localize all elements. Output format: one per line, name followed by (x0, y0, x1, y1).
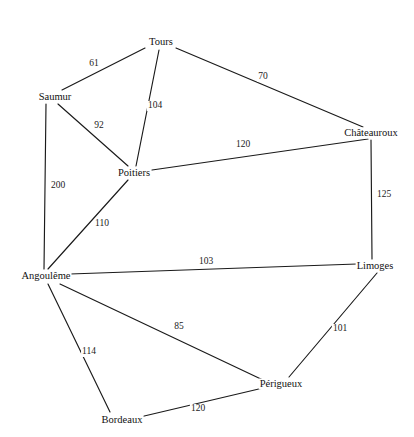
graph-node-poitiers[interactable]: Poitiers (117, 167, 151, 178)
graph-edge-poitiers-chateauroux (152, 139, 368, 170)
graph-node-perigueux[interactable]: Périgueux (259, 378, 304, 389)
graph-edges-layer (0, 0, 414, 437)
graph-diagram-canvas: ToursSaumurPoitiersChâteaurouxLimogesAng… (0, 0, 414, 437)
edge-weight-angouleme-bordeaux: 114 (81, 347, 97, 357)
graph-edge-poitiers-angouleme (48, 180, 128, 269)
edge-weight-tours-saumur: 61 (88, 59, 100, 69)
graph-node-limoges[interactable]: Limoges (356, 260, 395, 271)
graph-edge-tours-saumur (62, 48, 145, 90)
edge-weight-saumur-poitiers: 92 (93, 121, 105, 131)
graph-node-angouleme[interactable]: Angoulême (21, 270, 72, 281)
edge-weight-tours-poitiers: 104 (147, 101, 163, 111)
graph-edge-angouleme-perigueux (60, 284, 263, 380)
graph-edge-saumur-poitiers (58, 104, 128, 166)
edge-weight-angouleme-limoges: 103 (198, 257, 214, 267)
graph-edge-tours-chateauroux (176, 48, 363, 127)
graph-node-bordeaux[interactable]: Bordeaux (101, 414, 144, 425)
graph-node-saumur[interactable]: Saumur (38, 91, 73, 102)
edge-weight-chateauroux-limoges: 125 (376, 190, 392, 200)
graph-node-chateauroux[interactable]: Châteauroux (343, 127, 399, 138)
edge-weight-saumur-angouleme: 200 (50, 181, 66, 191)
edge-weight-tours-chateauroux: 70 (257, 72, 269, 82)
edge-weight-poitiers-angouleme: 110 (94, 219, 110, 229)
graph-edge-chateauroux-limoges (371, 140, 372, 259)
edge-weight-poitiers-chateauroux: 120 (235, 140, 251, 150)
edge-weight-limoges-perigueux: 101 (332, 324, 348, 334)
edge-weight-bordeaux-perigueux: 120 (190, 404, 206, 414)
edge-weight-angouleme-perigueux: 85 (173, 322, 185, 332)
graph-edge-saumur-angouleme (44, 104, 46, 269)
graph-node-tours[interactable]: Tours (148, 36, 174, 47)
edges-group (44, 48, 377, 417)
